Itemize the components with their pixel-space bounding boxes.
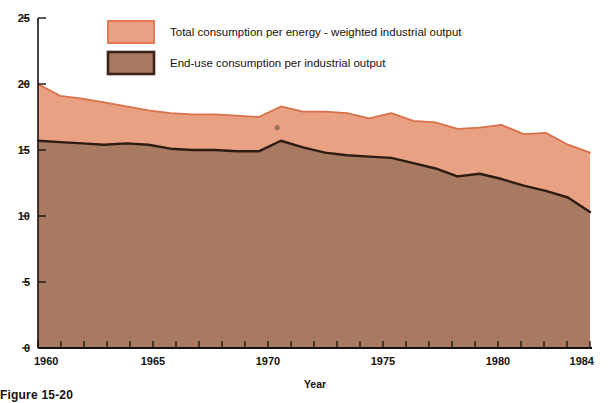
annotation-speck — [275, 125, 280, 130]
legend-label-enduse: End-use consumption per industrial outpu… — [170, 57, 386, 69]
x-tick-label: 1970 — [256, 355, 280, 367]
area-chart: 0510152025 196019651970197519801984 Year… — [0, 0, 608, 403]
x-tick-label: 1975 — [371, 355, 395, 367]
figure-caption: Figure 15-20 — [0, 388, 73, 403]
ink-speck — [275, 125, 280, 130]
figure-container: 0510152025 196019651970197519801984 Year… — [0, 0, 608, 403]
legend-swatch-total — [108, 21, 154, 43]
legend-swatch-enduse — [108, 52, 154, 74]
x-tick-label: 1984 — [570, 355, 595, 367]
x-tick-label: 1980 — [486, 355, 510, 367]
x-tick-label: 1960 — [34, 355, 58, 367]
legend-label-total: Total consumption per energy - weighted … — [170, 26, 462, 38]
x-axis-title: Year — [304, 378, 326, 390]
x-tick-label: 1965 — [141, 355, 165, 367]
